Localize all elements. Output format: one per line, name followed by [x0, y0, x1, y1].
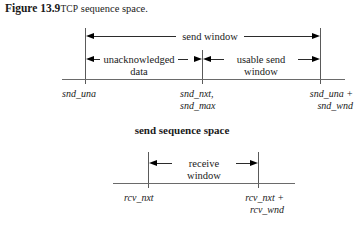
marker-rcv-nxt-plus-wnd: rcv_nxt + rcv_wnd [186, 192, 284, 215]
figure-caption-protocol: TCP [60, 4, 78, 14]
figure-caption: Figure 13.9TCP sequence space. [5, 2, 148, 16]
marker-snd-una-plus: snd_una + [310, 88, 353, 99]
receive-window-arrow-left [149, 160, 157, 166]
receive-window-rule-left [156, 163, 172, 164]
send-window-rule-left [93, 36, 176, 37]
usable-rule-left [210, 59, 224, 60]
unack-arrow-left [86, 56, 94, 62]
marker-rcv-nxt-plus: rcv_nxt + [245, 192, 284, 203]
send-window-arrow-left [86, 33, 94, 39]
usable-send-window-label-line1: usable send [237, 54, 286, 65]
receive-sequence-line [113, 183, 295, 184]
unack-data-label-line1: unacknowledged [103, 54, 174, 65]
marker-snd-wnd: snd_wnd [317, 100, 353, 111]
marker-rcv-wnd: rcv_wnd [250, 204, 284, 215]
marker-rcv-nxt: rcv_nxt [124, 192, 154, 204]
usable-send-window-label-line2: window [244, 66, 278, 77]
usable-rule-right [298, 59, 312, 60]
figure-caption-text: sequence space. [81, 3, 148, 14]
marker-snd-una-plus-wnd: snd_una + snd_wnd [243, 88, 353, 111]
unack-data-label-line2: data [130, 66, 148, 77]
receive-window-label: receive window [172, 158, 236, 181]
tick-snd-una-plus-wnd [320, 28, 321, 84]
send-sequence-line [62, 79, 345, 80]
unack-data-label: unacknowledged data [100, 54, 178, 77]
unack-rule-right [178, 59, 188, 60]
receive-window-arrow-right [250, 160, 258, 166]
marker-snd-nxt: snd_nxt, [180, 88, 214, 99]
send-sequence-space-title: send sequence space [96, 124, 268, 136]
marker-snd-una: snd_una [62, 88, 96, 100]
send-window-rule-right [244, 36, 312, 37]
receive-window-label-line1: receive [189, 158, 219, 169]
usable-arrow-left [203, 56, 211, 62]
marker-snd-nxt-max: snd_nxt, snd_max [180, 88, 216, 111]
receive-window-rule-right [236, 163, 250, 164]
send-window-label: send window [176, 31, 244, 43]
usable-arrow-right [312, 56, 320, 62]
unack-rule-left [93, 59, 100, 60]
send-window-arrow-right [312, 33, 320, 39]
figure-number: Figure 13.9 [5, 2, 60, 14]
marker-snd-max: snd_max [180, 100, 216, 111]
unack-arrow-right [194, 56, 202, 62]
receive-window-label-line2: window [187, 170, 221, 181]
usable-send-window-label: usable send window [224, 54, 298, 77]
